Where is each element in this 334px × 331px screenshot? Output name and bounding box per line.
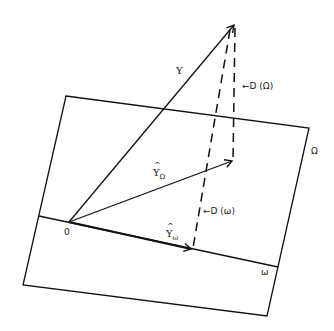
label-y-hat-Omega: YΩ	[153, 168, 165, 181]
label-omega-subspace: ω	[261, 268, 269, 277]
label-y: Y	[176, 66, 183, 76]
vector-y	[69, 25, 234, 222]
diagram-svg	[0, 0, 334, 331]
label-D-Omega: ←D (Ω)	[242, 82, 273, 91]
omega-plane	[23, 96, 309, 316]
label-Omega-plane: Ω	[311, 147, 318, 156]
label-origin: 0	[64, 228, 70, 237]
label-y-hat-omega: Yω	[166, 229, 178, 242]
diagram-canvas: Y YΩ Yω ←D (Ω) ←D (ω) Ω ω 0	[0, 0, 334, 331]
distance-D-Omega	[233, 28, 235, 161]
label-D-omega: ←D (ω)	[203, 207, 235, 216]
